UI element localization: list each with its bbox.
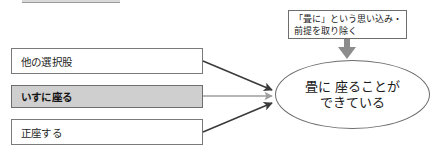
option-box-label: 正座する (12, 125, 62, 140)
option-box-label: 他の選択股 (12, 54, 72, 69)
arrow-note-to-result (338, 39, 356, 59)
option-box-seiza[interactable]: 正座する (11, 119, 203, 145)
note-line-2: 前提を取り除く (294, 26, 402, 38)
option-box-other-choices[interactable]: 他の選択股 (11, 48, 203, 74)
result-line-2: できている (320, 95, 385, 111)
note-line-1: 「畳に」という思い込み・ (294, 14, 402, 26)
cropped-header-box (22, 0, 120, 3)
arrow-option-0-to-result (203, 61, 272, 90)
option-box-sit-on-chair[interactable]: いすに座る (11, 85, 203, 108)
result-line-1: 畳に 座ることが (305, 79, 400, 95)
arrow-option-2-to-result (203, 103, 272, 132)
option-box-label: いすに座る (12, 89, 72, 104)
result-ellipse[interactable]: 畳に 座ることが できている (275, 60, 430, 129)
diagram-canvas: 他の選択股 いすに座る 正座する 「畳に」という思い込み・ 前提を取り除く 畳に… (0, 0, 441, 149)
note-callout-box[interactable]: 「畳に」という思い込み・ 前提を取り除く (288, 10, 407, 39)
